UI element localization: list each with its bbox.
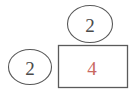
left-ellipse-value: 2 <box>25 58 35 79</box>
top-ellipse-value: 2 <box>85 15 95 36</box>
math-bar-model-diagram: 2 2 4 <box>0 0 134 97</box>
main-rectangle-value: 4 <box>87 58 97 79</box>
